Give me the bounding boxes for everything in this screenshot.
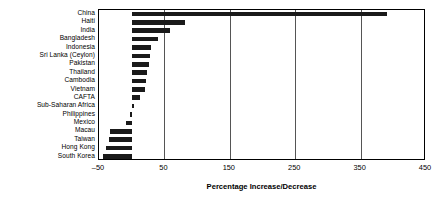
category-label: Macau bbox=[0, 126, 95, 134]
bar bbox=[103, 154, 132, 159]
bar-row bbox=[99, 119, 424, 127]
x-tick-label: 250 bbox=[288, 163, 300, 172]
category-label: CAFTA bbox=[0, 93, 95, 101]
category-label: Sub-Saharan Africa bbox=[0, 101, 95, 109]
category-label: Taiwan bbox=[0, 135, 95, 143]
bar bbox=[106, 146, 132, 151]
category-label: Bangladesh bbox=[0, 34, 95, 42]
category-label: Cambodia bbox=[0, 76, 95, 84]
category-label: Hong Kong bbox=[0, 143, 95, 151]
bar bbox=[132, 45, 152, 50]
x-axis-tick-labels: –5050150250350450 bbox=[0, 163, 440, 175]
category-label: Vietnam bbox=[0, 85, 95, 93]
category-label: China bbox=[0, 9, 95, 17]
bar bbox=[132, 79, 146, 84]
bar-row bbox=[99, 60, 424, 68]
bar bbox=[132, 20, 186, 25]
bar-row bbox=[99, 127, 424, 135]
bar-row bbox=[99, 153, 424, 160]
category-label: Haiti bbox=[0, 17, 95, 25]
category-axis-labels: ChinaHaitiIndiaBangladeshIndonesiaSri La… bbox=[0, 9, 95, 160]
bar-row bbox=[99, 35, 424, 43]
bar-row bbox=[99, 44, 424, 52]
bar-row bbox=[99, 18, 424, 26]
bar-chart: ChinaHaitiIndiaBangladeshIndonesiaSri La… bbox=[0, 0, 440, 207]
category-label: Indonesia bbox=[0, 43, 95, 51]
category-label: South Korea bbox=[0, 152, 95, 160]
bar-row bbox=[99, 27, 424, 35]
bar bbox=[132, 37, 158, 42]
category-label: Thailand bbox=[0, 68, 95, 76]
category-label: Mexico bbox=[0, 118, 95, 126]
bar-series bbox=[99, 10, 424, 159]
x-axis-title: Percentage Increase/Decrease bbox=[98, 182, 425, 191]
bar bbox=[130, 112, 132, 117]
category-label: India bbox=[0, 26, 95, 34]
bar-row bbox=[99, 10, 424, 18]
bar-row bbox=[99, 102, 424, 110]
plot-area bbox=[98, 9, 425, 160]
bar-row bbox=[99, 86, 424, 94]
bar bbox=[132, 70, 148, 75]
x-tick-label: –50 bbox=[92, 163, 104, 172]
x-tick-label: 50 bbox=[159, 163, 167, 172]
bar bbox=[132, 54, 150, 59]
x-tick-label: 350 bbox=[353, 163, 365, 172]
x-tick-label: 150 bbox=[223, 163, 235, 172]
bar bbox=[109, 137, 132, 142]
bar bbox=[132, 104, 135, 109]
bar-row bbox=[99, 77, 424, 85]
bar bbox=[110, 129, 132, 134]
bar-row bbox=[99, 111, 424, 119]
bar bbox=[132, 87, 145, 92]
bar-row bbox=[99, 94, 424, 102]
bar bbox=[126, 121, 131, 126]
category-label: Philippines bbox=[0, 110, 95, 118]
bar-row bbox=[99, 52, 424, 60]
bar bbox=[132, 62, 149, 67]
bar-row bbox=[99, 144, 424, 152]
x-tick-label: 450 bbox=[419, 163, 431, 172]
bar-row bbox=[99, 136, 424, 144]
bar-row bbox=[99, 69, 424, 77]
category-label: Pakistan bbox=[0, 59, 95, 67]
bar bbox=[132, 12, 387, 17]
bar bbox=[132, 95, 140, 100]
bar bbox=[132, 28, 170, 33]
category-label: Sri Lanka (Ceylon) bbox=[0, 51, 95, 59]
